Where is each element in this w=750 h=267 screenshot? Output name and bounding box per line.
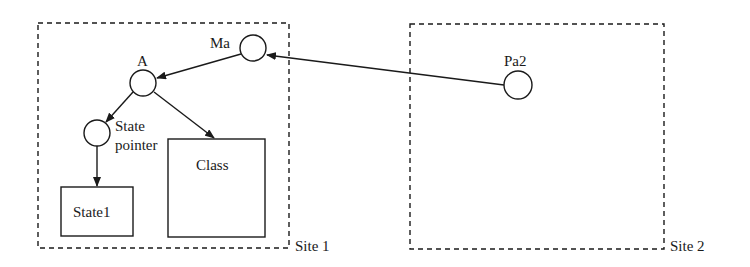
edge-ma-to-a [157, 54, 241, 78]
node-a-label: A [137, 53, 148, 69]
node-state-pointer: State pointer [84, 118, 158, 153]
node-state1: State1 [61, 187, 133, 236]
node-a: A [130, 53, 156, 96]
node-state-pointer-label-line1: State [115, 118, 145, 134]
node-pa2: Pa2 [504, 53, 532, 99]
node-ma-label: Ma [210, 35, 230, 51]
diagram-canvas: Site 1 Site 2 Ma A State pointer Pa2 Sta… [0, 0, 750, 267]
node-ma: Ma [210, 35, 266, 61]
edge-a-to-class [154, 92, 214, 138]
node-pa2-label: Pa2 [504, 53, 527, 69]
node-class-label: Class [196, 157, 229, 173]
site-1-label: Site 1 [295, 238, 330, 254]
edge-pa2-to-ma [267, 55, 504, 85]
node-state-pointer-label-line2: pointer [115, 137, 158, 153]
site-2-label: Site 2 [670, 238, 705, 254]
site-2-region: Site 2 [410, 24, 705, 254]
node-class: Class [168, 139, 265, 237]
node-state1-label: State1 [73, 204, 111, 220]
